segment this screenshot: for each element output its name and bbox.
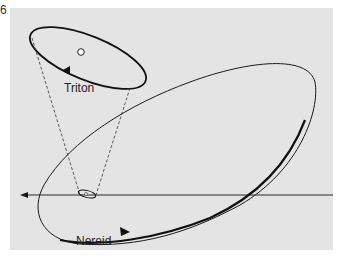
planet-neptune [78, 49, 85, 56]
nereid-direction-arrow-icon [120, 227, 130, 236]
orbit-diagram [0, 0, 346, 261]
label-triton: Triton [64, 81, 94, 95]
reference-arrow-icon [20, 192, 28, 198]
projection-line-right [96, 88, 130, 195]
projected-planet [85, 193, 88, 196]
label-nereid: Nereid [76, 234, 111, 248]
projection-line-left [32, 38, 80, 195]
